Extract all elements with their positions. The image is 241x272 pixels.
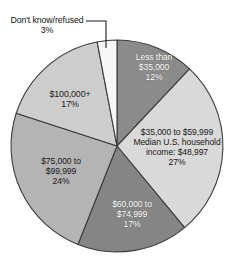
pie-chart-container: Less than $35,000 12% $35,000 to $59,999… (0, 0, 241, 272)
pie-chart-graphic (0, 0, 241, 272)
